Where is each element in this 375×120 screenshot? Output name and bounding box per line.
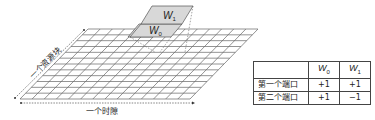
resource-block-label: 一个资源块	[27, 45, 62, 80]
arrow-end-dot	[14, 97, 16, 99]
weight-table: W0 W1 第一个端口 +1 +1 第二个端口 +1 −1	[253, 61, 371, 105]
arrow-head-icon	[192, 102, 195, 105]
table-row: 第一个端口 +1 +1	[254, 78, 371, 91]
table-header-row: W0 W1	[254, 62, 371, 79]
cell-w0: +1	[309, 78, 340, 91]
table-corner-cell	[254, 62, 309, 79]
resource-grid	[20, 29, 258, 99]
table-row: 第二个端口 +1 −1	[254, 91, 371, 104]
cell-w1: +1	[340, 78, 371, 91]
row-label: 第一个端口	[254, 78, 309, 91]
table-header-w1: W1	[340, 62, 371, 79]
cell-w1: −1	[340, 91, 371, 104]
timeslot-label: 一个时隙	[86, 106, 118, 116]
arrow-end-dot	[83, 29, 85, 31]
cell-w0: +1	[309, 91, 340, 104]
row-label: 第二个端口	[254, 91, 309, 104]
arrow-end-dot	[20, 102, 22, 104]
table-header-w0: W0	[309, 62, 340, 79]
